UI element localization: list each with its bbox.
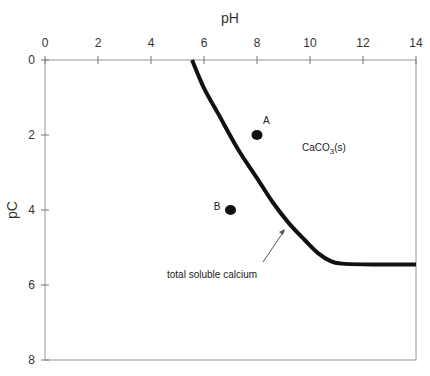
y-axis-title: pC bbox=[4, 201, 20, 219]
point-a-marker bbox=[252, 130, 263, 140]
total-soluble-calcium-curve bbox=[192, 60, 416, 264]
y-tick-label: 6 bbox=[28, 278, 35, 292]
x-tick-label: 0 bbox=[42, 36, 49, 50]
x-tick-label: 6 bbox=[201, 36, 208, 50]
chart: pH pC 02468101214 02468 AB CaCO3(s) tota… bbox=[0, 0, 430, 376]
x-tick-label: 4 bbox=[148, 36, 155, 50]
y-tick-label: 8 bbox=[28, 353, 35, 367]
curve-annotation-label: total soluble calcium bbox=[167, 269, 257, 280]
y-tick-label: 0 bbox=[28, 53, 35, 67]
x-tick-label: 10 bbox=[303, 36, 317, 50]
y-axis-ticks: 02468 bbox=[28, 53, 49, 367]
y-tick-label: 4 bbox=[28, 203, 35, 217]
point-a-label: A bbox=[263, 115, 270, 126]
x-tick-label: 14 bbox=[409, 36, 423, 50]
point-b-marker bbox=[225, 205, 236, 215]
point-b-label: B bbox=[214, 201, 221, 212]
x-tick-label: 8 bbox=[254, 36, 261, 50]
x-axis-title: pH bbox=[221, 10, 239, 26]
arrow-head-icon bbox=[279, 229, 285, 235]
y-tick-label: 2 bbox=[28, 128, 35, 142]
data-points: AB bbox=[214, 115, 270, 215]
annotation-arrow-line bbox=[263, 231, 284, 262]
x-tick-label: 12 bbox=[356, 36, 370, 50]
x-tick-label: 2 bbox=[95, 36, 102, 50]
caco3-region-label: CaCO3(s) bbox=[302, 142, 346, 156]
